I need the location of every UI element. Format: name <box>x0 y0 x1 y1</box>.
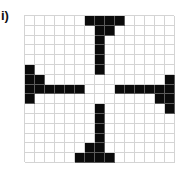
grid-cell-empty <box>65 124 75 134</box>
grid-cell-empty <box>105 124 115 134</box>
grid-cell-empty <box>45 45 55 55</box>
grid-cell-empty <box>145 134 155 144</box>
grid-cell-empty <box>35 134 45 144</box>
grid-cell-filled <box>65 85 75 95</box>
grid-cell-empty <box>155 134 165 144</box>
grid-cell-empty <box>55 134 65 144</box>
grid-cell-filled <box>115 16 125 26</box>
grid-cell-filled <box>165 85 175 95</box>
grid-cell-empty <box>115 134 125 144</box>
grid-cell-empty <box>105 85 115 95</box>
grid-cell-empty <box>155 45 165 55</box>
grid-cell-empty <box>85 36 95 46</box>
grid-cell-empty <box>65 94 75 104</box>
grid-cell-empty <box>25 114 35 124</box>
grid-cell-empty <box>155 124 165 134</box>
grid-cell-empty <box>155 104 165 114</box>
grid-cell-empty <box>45 143 55 153</box>
grid-cell-empty <box>25 16 35 26</box>
grid-cell-empty <box>55 36 65 46</box>
grid-cell-empty <box>145 75 155 85</box>
grid-cell-empty <box>155 55 165 65</box>
grid-cell-empty <box>105 134 115 144</box>
grid-cell-empty <box>125 104 135 114</box>
grid-cell-empty <box>85 65 95 75</box>
grid-cell-empty <box>105 94 115 104</box>
grid-cell-empty <box>105 45 115 55</box>
grid-cell-empty <box>145 26 155 36</box>
grid-cell-empty <box>75 36 85 46</box>
grid-cell-filled <box>25 85 35 95</box>
grid-cell-empty <box>45 36 55 46</box>
grid-cell-filled <box>95 143 105 153</box>
grid-cell-empty <box>85 45 95 55</box>
grid-cell-empty <box>155 114 165 124</box>
grid-cell-empty <box>155 16 165 26</box>
grid-cell-filled <box>95 153 105 163</box>
grid-cell-empty <box>85 114 95 124</box>
grid-cell-empty <box>35 55 45 65</box>
grid-cell-empty <box>55 114 65 124</box>
grid-cell-empty <box>55 26 65 36</box>
grid-cell-empty <box>55 65 65 75</box>
grid-cell-empty <box>125 26 135 36</box>
grid-cell-empty <box>25 55 35 65</box>
grid-cell-empty <box>165 65 175 75</box>
grid-cell-empty <box>135 36 145 46</box>
grid-cell-empty <box>95 75 105 85</box>
grid-cell-empty <box>45 16 55 26</box>
grid-cell-filled <box>35 85 45 95</box>
grid-cell-filled <box>85 153 95 163</box>
grid-cell-empty <box>65 114 75 124</box>
grid-cell-empty <box>115 124 125 134</box>
grid-cell-filled <box>45 85 55 95</box>
grid-cell-filled <box>135 85 145 95</box>
grid-cell-empty <box>55 16 65 26</box>
grid-cell-empty <box>55 55 65 65</box>
grid-cell-empty <box>35 153 45 163</box>
grid-cell-filled <box>95 134 105 144</box>
grid-cell-filled <box>25 65 35 75</box>
grid-cell-filled <box>165 104 175 114</box>
grid-cell-empty <box>85 134 95 144</box>
grid-cell-empty <box>65 16 75 26</box>
grid-cell-filled <box>75 153 85 163</box>
grid-cell-empty <box>155 153 165 163</box>
grid-cell-empty <box>65 143 75 153</box>
grid-cell-filled <box>105 26 115 36</box>
grid-cell-filled <box>95 45 105 55</box>
grid-cell-filled <box>75 85 85 95</box>
grid-cell-empty <box>55 94 65 104</box>
grid-cell-empty <box>55 75 65 85</box>
grid-cell-empty <box>65 134 75 144</box>
grid-cell-filled <box>95 114 105 124</box>
grid-cell-empty <box>165 134 175 144</box>
grid-cell-empty <box>75 75 85 85</box>
grid-cell-empty <box>155 36 165 46</box>
grid-cell-empty <box>165 153 175 163</box>
grid-cell-empty <box>25 124 35 134</box>
grid-cell-empty <box>135 45 145 55</box>
grid-cell-empty <box>95 85 105 95</box>
grid-cell-empty <box>165 124 175 134</box>
grid-cell-empty <box>55 45 65 55</box>
grid-cell-empty <box>135 75 145 85</box>
grid-cell-filled <box>125 85 135 95</box>
grid-cell-empty <box>45 114 55 124</box>
grid-cell-empty <box>115 153 125 163</box>
grid-cell-filled <box>105 153 115 163</box>
grid-cell-empty <box>35 104 45 114</box>
grid-cell-empty <box>135 26 145 36</box>
grid-cell-empty <box>115 94 125 104</box>
grid-cell-empty <box>125 94 135 104</box>
grid-cell-empty <box>45 55 55 65</box>
grid-cell-empty <box>85 94 95 104</box>
grid-cell-empty <box>45 124 55 134</box>
grid-cell-empty <box>145 55 155 65</box>
grid-cell-empty <box>45 104 55 114</box>
grid-cell-filled <box>95 104 105 114</box>
grid-cell-empty <box>125 153 135 163</box>
grid-cell-empty <box>25 153 35 163</box>
grid-cell-empty <box>85 124 95 134</box>
grid-cell-empty <box>35 36 45 46</box>
